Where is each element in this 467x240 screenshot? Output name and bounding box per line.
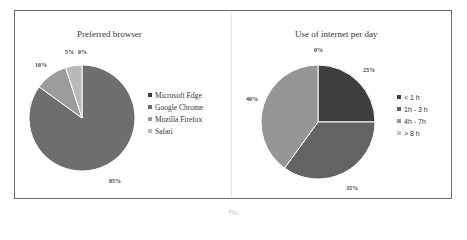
label-1h-3h-pct: 35% <box>346 185 358 191</box>
legend-label: 4h - 7h <box>404 118 426 125</box>
left-legend: Microsoft Edge Google Chrome Mozilla Fir… <box>148 89 203 137</box>
legend-item-mozilla-firefox: Mozilla Firefox <box>148 113 203 125</box>
figure-caption: Fig. <box>0 209 467 215</box>
legend-item-microsoft-edge: Microsoft Edge <box>148 89 203 101</box>
label-4h-7h-pct: 40% <box>246 96 258 102</box>
legend-swatch-icon <box>397 107 401 111</box>
legend-swatch-icon <box>148 117 152 121</box>
label-chrome-pct: 85% <box>109 178 121 184</box>
label-safari-pct: 5% <box>65 49 74 55</box>
legend-label: Safari <box>155 127 173 136</box>
legend-swatch-icon <box>397 119 401 123</box>
legend-label: Mozilla Firefox <box>155 115 202 124</box>
pie-slice-less-than-1h <box>318 65 375 122</box>
legend-label: Google Chrome <box>155 103 203 112</box>
legend-swatch-icon <box>148 93 152 97</box>
legend-item-less-than-1h: < 1 h <box>397 91 428 103</box>
legend-item-google-chrome: Google Chrome <box>148 101 203 113</box>
label-lt1h-pct: 25% <box>363 67 375 73</box>
legend-item-safari: Safari <box>148 125 203 137</box>
label-edge-pct: 0% <box>78 49 87 55</box>
right-chart-title: Use of internet per day <box>295 29 377 39</box>
legend-item-4h-7h: 4h - 7h <box>397 115 428 127</box>
legend-swatch-icon <box>397 95 401 99</box>
legend-swatch-icon <box>148 105 152 109</box>
legend-item-more-than-8h: > 8 h <box>397 127 428 139</box>
label-firefox-pct: 10% <box>35 62 47 68</box>
right-legend: < 1 h 1h - 3 h 4h - 7h > 8 h <box>397 91 428 139</box>
legend-label: < 1 h <box>404 94 420 101</box>
legend-swatch-icon <box>148 129 152 133</box>
legend-label: Microsoft Edge <box>155 91 202 100</box>
legend-label: 1h - 3 h <box>404 106 428 113</box>
legend-label: > 8 h <box>404 130 420 137</box>
legend-swatch-icon <box>397 131 401 135</box>
legend-item-1h-3h: 1h - 3 h <box>397 103 428 115</box>
label-gt8h-pct: 0% <box>314 47 323 53</box>
